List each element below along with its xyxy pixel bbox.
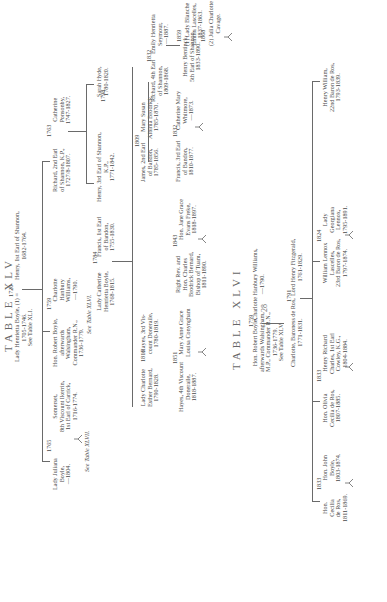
descent-line (22, 289, 42, 290)
person-lady-charlotte-esther-bernard: Lady Charlotte Esther Bernard, 1790-1828… (140, 368, 160, 407)
sibling-bar (132, 67, 133, 407)
person-hon-olivia-cecilia-de-ros: Hon. Olivia Cecilia de Ros, 1807-1885. (322, 389, 342, 427)
sibling-bar (312, 82, 313, 502)
spouse-catherine-mary-whitmore: Catherine Mary Whitmore, —1873. (175, 91, 195, 130)
root-marriage-year: 1726 (8, 285, 15, 297)
issue-fork-icon (345, 230, 353, 240)
marriage-year: 1868 (200, 30, 207, 42)
spouse-charlotte-hanbury-williams: Charlotte Hanbury Williams, —1790. (52, 278, 78, 302)
person-charlotte-baroness-de-ros: Charlotte, Baroness de Ros, 1771-1831. (290, 298, 303, 367)
person-lady-juliana-boyle: Lady Juliana Boyle, —1804. (52, 458, 72, 490)
spouse-hon-john-boyle: Hon. John Boyle, 1803-1874. (322, 454, 342, 482)
spouse-francis-1st-earl-bandon: Francis, 1st Earl of Bandon, 1755-1830. (96, 217, 116, 257)
spouse-hayes-3rd-viscount: Hayes, 3rd Vis- count Doneraile, 1780-18… (140, 313, 160, 354)
spouse-mary-anne-grace-conyngham: Mary Anne Grace Louisa Conyngham (178, 308, 191, 357)
person-hon-robert-boyle: Hon. Robert Boyle, afterwards Walsingham… (52, 319, 85, 367)
spouse-sarah-hyde: Sarah Hyde, 1780-1820. (96, 66, 109, 97)
descent-line (86, 84, 94, 85)
descent-line (112, 261, 132, 262)
sibling-bar (42, 162, 43, 462)
rotated-page: TABLE XLV Lady Henrietta Boyle, (1) = 17… (0, 0, 387, 602)
issue-fork-icon (198, 347, 206, 357)
spouse-emily-henrietta-seymour: Emily Henrietta Seymour, —1887. (150, 14, 170, 54)
person-hon-cecilia-de-ros: Hon. Cecilia de Ros, 1811-1869. (322, 494, 348, 522)
root-lady-henrietta-boyle: Lady Henrietta Boyle, (1) = 1705-1746. S… (14, 293, 34, 362)
person-richard-4th-earl: Richard, 4th Earl of Shannon, 1809-1868. (150, 60, 170, 102)
table-46-title: TABLE XLVI (230, 267, 242, 370)
descent-line (42, 161, 50, 162)
root-henry-1st-earl: Henry, 1st Earl of Shannon, 1682-1764. (14, 211, 27, 280)
person-francis-3rd-earl-bandon: Francis, 3rd Earl of Bandon, 1810-1877. (175, 141, 195, 182)
issue-fork-icon (345, 478, 353, 488)
issue-fork-icon (198, 234, 206, 244)
person-henry-3rd-earl: Henry, 3rd Earl of Shannon, K.P., 1771-1… (96, 132, 116, 202)
person-lady-catherine-henrietta-boyle: Lady Catherine Henrietta Boyle, 1768-181… (96, 271, 116, 312)
spouse-somerset-earl-of-carrick: Somerset, 8th Viscount Ikerrin, 1st Earl… (52, 381, 78, 432)
person-william-lennox-lascelles: William Lennox Lascelles, 23rd Baron de … (322, 239, 348, 287)
issue-fork-icon (224, 32, 232, 42)
descent-line (312, 81, 320, 82)
person-james-2nd-earl-bandon: James, 2nd Earl of Bandon, 1785-1856. (140, 143, 160, 182)
descent-line (68, 131, 86, 132)
issue-fork-icon (74, 434, 82, 444)
marriage-year: 1765 (46, 440, 53, 452)
spouse-catherine-ponsonby: Catherine Ponsonby, 1747-1827. (52, 96, 72, 124)
spouse-julia-charlotte-cavage: (2) Julia Charlotte Cavage. (208, 1, 221, 46)
marriage-year: 1859 (176, 30, 183, 42)
spouse-hon-jane-grace-evans-freke: Hon. Jane Grace Evans Freke, 1818-1897. (178, 199, 198, 240)
descent-line (312, 261, 320, 262)
issue-fork-icon (345, 362, 353, 372)
marriage-year: 1763 (46, 125, 53, 137)
person-richard-2nd-earl: Richard, 2nd Earl of Shannon, K.P., 1727… (52, 148, 72, 192)
descent-line (42, 461, 50, 462)
descent-line (86, 183, 94, 184)
descent-line (262, 323, 284, 324)
descent-line (300, 298, 312, 299)
root-hon-robert-boyle: Hon. Robert Boyle, afterwards Walsingham… (252, 312, 285, 372)
issue-fork-icon (195, 122, 203, 132)
page-number: 28 (260, 304, 269, 312)
descent-line (312, 401, 320, 402)
person-hayes-4th-viscount: Hayes, 4th Viscount Doneraile, 1818-1887… (178, 362, 198, 412)
see-table-note: See Table XLVII. (84, 430, 91, 472)
person-right-rev-charles-brodrick-bernard: Right Rev. and Hon. Charles Brodrick Ber… (175, 252, 208, 297)
person-henry-william-de-ros: Henry William, 22nd Baron de Ros, 1793-1… (322, 63, 342, 112)
spouse-lord-henry-fitzgerald: Lord Henry Fitzgerald, 1761-1829. (290, 239, 303, 296)
sibling-bar (86, 84, 87, 184)
descent-line (42, 331, 50, 332)
descent-line (312, 501, 320, 502)
descent-line (166, 45, 180, 46)
see-table-note: See Table XLVI. (86, 294, 93, 334)
